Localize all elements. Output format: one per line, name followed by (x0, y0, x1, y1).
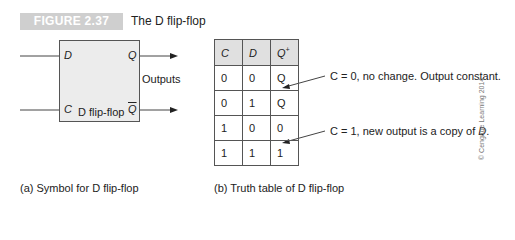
annotation-c0: C = 0, no change. Output constant. (330, 70, 501, 82)
caption-symbol: (a) Symbol for D flip-flop (20, 182, 139, 194)
cell: Q (271, 66, 299, 91)
table-header: C D Q+ (215, 40, 299, 66)
cell: 1 (215, 116, 243, 141)
cell: 0 (215, 66, 243, 91)
input-c-label: C (64, 103, 72, 115)
header-qplus: Q+ (271, 40, 299, 66)
header-c: C (215, 40, 243, 66)
cell: 0 (243, 116, 271, 141)
output-q-label: Q (128, 49, 137, 61)
table-row: 1 0 0 (215, 116, 299, 141)
truth-table: C D Q+ 0 0 Q 0 1 Q 1 0 0 1 1 1 (214, 39, 299, 166)
cell: 1 (271, 141, 299, 166)
cell: 1 (215, 141, 243, 166)
outputs-label: Outputs (142, 73, 181, 85)
box-label: D flip-flop (78, 106, 124, 118)
table-row: 0 0 Q (215, 66, 299, 91)
annotation-c1: C = 1, new output is a copy of D. (330, 125, 489, 137)
caption-truth-table: (b) Truth table of D flip-flop (214, 182, 344, 194)
cell: 1 (243, 141, 271, 166)
cell: Q (271, 91, 299, 116)
input-d-label: D (64, 49, 72, 61)
table-row: 0 1 Q (215, 91, 299, 116)
cell: 0 (271, 116, 299, 141)
cell: 1 (243, 91, 271, 116)
header-d: D (243, 40, 271, 66)
copyright-notice: © Cengage Learning 2014 (478, 78, 485, 160)
cell: 0 (215, 91, 243, 116)
cell: 0 (243, 66, 271, 91)
table-row: 1 1 1 (215, 141, 299, 166)
output-qbar-label: Q (128, 103, 137, 115)
